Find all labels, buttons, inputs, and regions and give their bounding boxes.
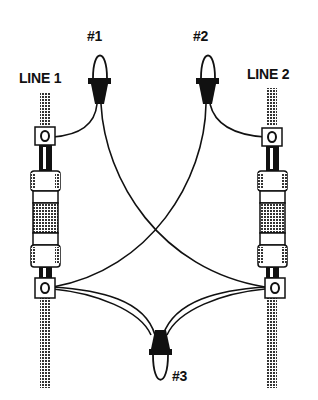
connector-2-label: #2: [193, 28, 208, 44]
line-2-bottom-terminal: [265, 278, 285, 298]
wires: [53, 104, 265, 335]
connector-3-label: #3: [172, 368, 187, 384]
line-1-bottom-terminal: [35, 278, 55, 298]
line-1-top-terminal: [35, 127, 55, 145]
line-2-fuse-holder: [258, 146, 287, 278]
wire-nut-1: [88, 56, 111, 105]
line-2-top-terminal: [262, 128, 282, 146]
wiring-diagram: #1 #2 LINE 1 LINE 2 #3: [0, 0, 318, 400]
line-1-label: LINE 1: [19, 70, 61, 86]
wire-nut-3: [149, 330, 172, 380]
connector-1-label: #1: [87, 28, 102, 44]
line-2-label: LINE 2: [247, 66, 289, 82]
wire-nut-2: [196, 56, 219, 105]
line-1-fuse-holder: [31, 145, 60, 278]
